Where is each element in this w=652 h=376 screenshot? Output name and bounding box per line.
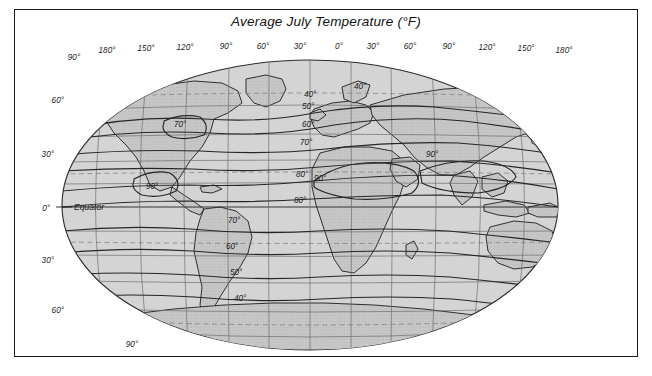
isotherm-label-80-tropical: 80° bbox=[294, 196, 307, 205]
isotherm-label-90-asia: 90° bbox=[426, 150, 439, 159]
longitude-label-30e: 30° bbox=[367, 42, 380, 51]
isotherm-label-50-atlantic: 50° bbox=[302, 102, 315, 111]
longitude-label-120w: 120° bbox=[177, 43, 195, 52]
isotherm-label-60-south: 60° bbox=[226, 242, 239, 251]
longitude-label-90w: 90° bbox=[220, 42, 233, 51]
longitude-label-60e: 60° bbox=[404, 42, 417, 51]
longitude-label-30w: 30° bbox=[294, 42, 307, 51]
screenshot-root: Average July Temperature (°F) bbox=[0, 0, 652, 376]
world-map[interactable]: 40° 40° 50° 60° 70° 70° 80° 80° 90° 90° … bbox=[14, 9, 638, 357]
longitude-labels: 180° 150° 120° 90° 60° 30° 0° 30° 60° 90… bbox=[99, 42, 574, 55]
isotherm-label-90-swna: 90° bbox=[146, 182, 159, 191]
latitude-label-0: 0° bbox=[42, 204, 51, 213]
longitude-label-60w: 60° bbox=[257, 42, 270, 51]
isotherm-label-70-nwna: 70° bbox=[174, 120, 187, 129]
land-australia bbox=[486, 221, 556, 269]
latitude-label-30n: 30° bbox=[42, 150, 55, 159]
latitude-label-90n: 90° bbox=[68, 53, 81, 62]
equator-label: Equator bbox=[74, 202, 105, 212]
longitude-label-90e: 90° bbox=[443, 42, 456, 51]
longitude-label-150w: 150° bbox=[138, 44, 156, 53]
latitude-label-60n: 60° bbox=[52, 96, 65, 105]
isotherm-label-40-atlantic: 40° bbox=[304, 90, 317, 99]
isotherm-label-90-sahara: 90° bbox=[314, 174, 327, 183]
latitude-label-90s: 90° bbox=[126, 340, 139, 349]
isotherm-label-40-arctic-na: 40° bbox=[354, 82, 367, 91]
map-figure: Average July Temperature (°F) bbox=[0, 0, 652, 376]
isotherm-label-80-subtropical: 80° bbox=[296, 170, 309, 179]
latitude-label-30s: 30° bbox=[42, 256, 55, 265]
longitude-label-180e: 180° bbox=[556, 46, 574, 55]
longitude-label-180w: 180° bbox=[99, 46, 117, 55]
longitude-label-0: 0° bbox=[335, 42, 344, 51]
latitude-label-60s: 60° bbox=[52, 306, 65, 315]
land-new-zealand bbox=[580, 255, 596, 273]
longitude-label-120e: 120° bbox=[479, 43, 497, 52]
isotherm-label-70-atlantic: 70° bbox=[300, 138, 313, 147]
isotherm-label-40-south: 40° bbox=[234, 294, 247, 303]
isotherm-label-70-south: 70° bbox=[228, 216, 241, 225]
isotherm-label-50-south: 50° bbox=[230, 268, 243, 277]
isotherm-label-60-atlantic: 60° bbox=[302, 120, 315, 129]
longitude-label-150e: 150° bbox=[518, 44, 536, 53]
